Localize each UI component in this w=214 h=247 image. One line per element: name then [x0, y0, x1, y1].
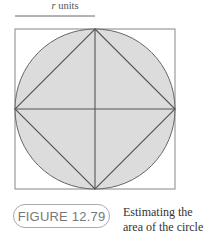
figure-caption: Estimating the area of the circle	[123, 205, 203, 235]
caption-line-2: area of the circle	[123, 220, 203, 235]
caption-line-1: Estimating the	[123, 205, 203, 220]
figure-label-badge: FIGURE 12.79	[13, 204, 110, 228]
circle-area-diagram	[0, 0, 214, 200]
